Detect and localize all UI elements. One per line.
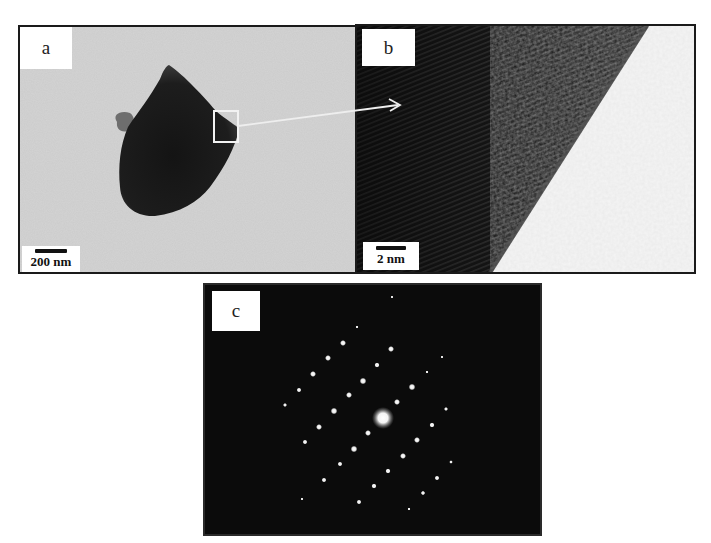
scale-bar-label: 200 nm — [31, 254, 72, 270]
scale-bar-200nm: 200 nm — [22, 246, 80, 272]
panel-label-b-text: b — [384, 37, 394, 59]
panel-label-a: a — [20, 27, 72, 69]
scale-bar-2nm: 2 nm — [363, 242, 419, 270]
scale-bar-line — [35, 249, 67, 253]
panel-b-hrtem-image: b 2 nm — [355, 24, 696, 274]
scale-bar-label: 2 nm — [377, 251, 405, 267]
scale-bar-line — [376, 246, 406, 250]
central-beam-spot — [372, 407, 394, 429]
panel-label-a-text: a — [42, 37, 50, 59]
panel-c-diffraction-pattern: c — [203, 283, 542, 536]
panel-label-c: c — [212, 291, 260, 331]
panel-label-c-text: c — [232, 300, 240, 322]
panel-a-tem-image: a 200 nm — [18, 25, 357, 274]
panel-label-b: b — [362, 29, 415, 66]
